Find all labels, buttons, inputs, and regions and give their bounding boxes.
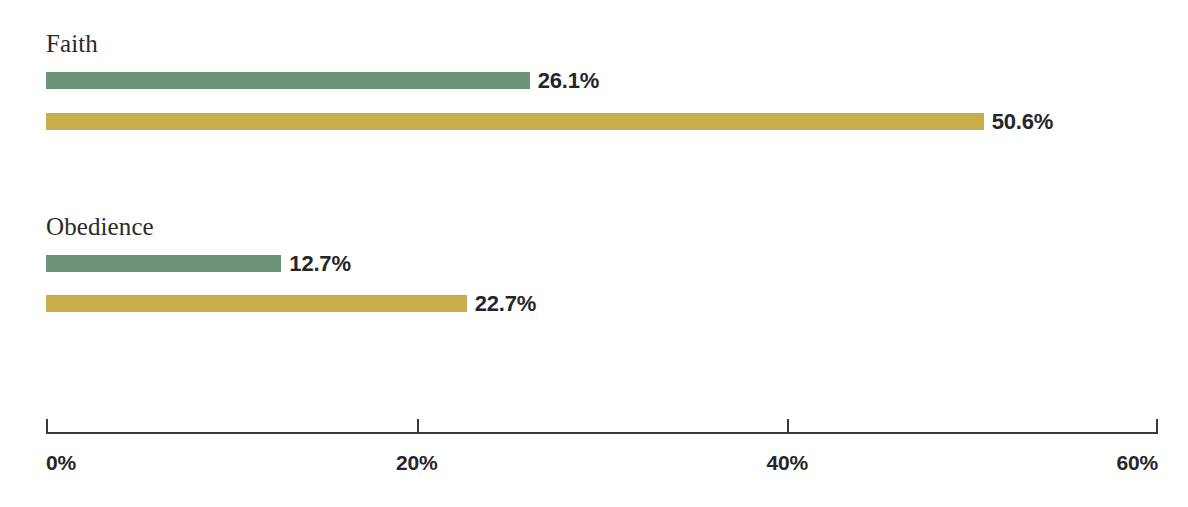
- x-axis-tick-label-40pct: 40%: [767, 452, 808, 473]
- x-axis-tick-60pct: [1156, 419, 1158, 432]
- value-label-obedience-gold: 22.7%: [475, 293, 536, 315]
- bar-obedience-green: [46, 255, 281, 272]
- group-label-faith: Faith: [46, 31, 98, 56]
- x-axis-tick-0pct: [46, 419, 48, 432]
- value-label-faith-green: 26.1%: [538, 70, 599, 92]
- x-axis-tick-label-0pct: 0%: [46, 452, 76, 473]
- value-label-obedience-green: 12.7%: [289, 253, 350, 275]
- x-axis-tick-20pct: [417, 419, 419, 432]
- bar-faith-gold: [46, 113, 984, 130]
- x-axis-tick-label-60pct: 60%: [1117, 452, 1158, 473]
- group-label-obedience: Obedience: [46, 214, 154, 239]
- x-axis-line: [46, 432, 1158, 434]
- x-axis-tick-40pct: [787, 419, 789, 432]
- value-label-faith-gold: 50.6%: [992, 111, 1053, 133]
- x-axis-tick-label-20pct: 20%: [396, 452, 437, 473]
- bar-faith-green: [46, 72, 530, 89]
- bar-obedience-gold: [46, 295, 467, 312]
- bar-chart: Faith 26.1% 50.6% Obedience 12.7% 22.7% …: [0, 0, 1188, 507]
